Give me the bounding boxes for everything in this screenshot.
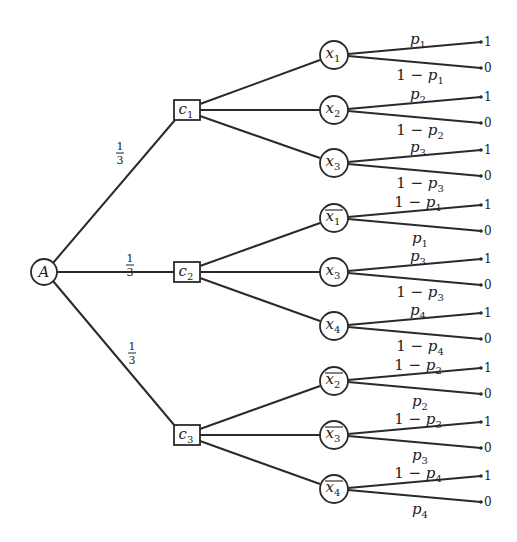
clause-node-1: c1 <box>174 100 200 120</box>
leaf-value-1: 1 <box>484 198 492 212</box>
leaf-value-1: 1 <box>484 469 492 483</box>
leaf-value-0: 0 <box>484 116 492 130</box>
edge-clause-3-to-var-1 <box>200 386 320 429</box>
leaf-value-1: 1 <box>484 35 492 49</box>
svg-text:3: 3 <box>117 154 124 167</box>
leaf-value-1: 1 <box>484 361 492 375</box>
edge-clause-1-to-var-3 <box>200 116 320 158</box>
probability-tree-diagram: Ac1x1x2x3c2x1x3x4c3x2x3x41310p11 − p110p… <box>0 0 517 542</box>
variable-node-2-2: x3 <box>320 258 348 286</box>
branch-prob-down: p1 <box>412 229 428 249</box>
branch-prob-up: 1 − p3 <box>394 410 442 430</box>
clause-node-3: c3 <box>174 425 200 445</box>
branch-prob-up: 1 − p4 <box>394 464 442 484</box>
clause-node-2: c2 <box>174 262 200 282</box>
leaf-value-1: 1 <box>484 415 492 429</box>
leaf-value-0: 0 <box>484 61 492 75</box>
leaf-value-1: 1 <box>484 143 492 157</box>
variable-node-1-2: x2 <box>320 96 348 124</box>
leaf-value-0: 0 <box>484 441 492 455</box>
edge-root-to-clause-3 <box>53 281 175 426</box>
variable-node-1-3: x3 <box>320 149 348 177</box>
leaf-value-1: 1 <box>484 306 492 320</box>
leaf-value-1: 1 <box>484 252 492 266</box>
edge-labels: 1310p11 − p110p21 − p210p31 − p313101 − … <box>116 30 492 520</box>
branch-prob-up: p1 <box>410 30 426 50</box>
edge-prob-3: 13 <box>128 340 136 367</box>
svg-text:1: 1 <box>127 252 134 265</box>
edge-clause-2-to-var-3 <box>200 278 320 321</box>
edge-clause-2-to-var-1 <box>200 223 320 266</box>
svg-text:1: 1 <box>129 340 136 353</box>
leaf-value-0: 0 <box>484 387 492 401</box>
leaf-value-0: 0 <box>484 169 492 183</box>
leaf-value-0: 0 <box>484 278 492 292</box>
branch-prob-up: 1 − p1 <box>394 193 442 213</box>
branch-prob-down: p2 <box>412 392 428 412</box>
branch-prob-down: 1 − p3 <box>396 174 444 194</box>
svg-text:1: 1 <box>117 140 124 153</box>
leaf-value-0: 0 <box>484 495 492 509</box>
branch-prob-up: p3 <box>410 247 426 267</box>
root-label: A <box>37 263 50 281</box>
variable-node-3-3: x4 <box>320 475 348 503</box>
edges <box>53 40 483 504</box>
branch-prob-up: 1 − p2 <box>394 356 442 376</box>
edge-root-to-clause-1 <box>53 120 175 263</box>
variable-node-1-1: x1 <box>320 41 348 69</box>
variable-node-2-3: x4 <box>320 312 348 340</box>
root-node: A <box>31 259 57 285</box>
branch-prob-down: p3 <box>412 446 428 466</box>
branch-prob-down: 1 − p2 <box>396 121 444 141</box>
svg-text:3: 3 <box>129 354 136 367</box>
branch-prob-down: 1 − p1 <box>396 66 444 86</box>
edge-prob-1: 13 <box>116 140 124 167</box>
edge-clause-3-to-var-3 <box>200 441 320 484</box>
branch-prob-down: p4 <box>412 500 428 520</box>
variable-node-3-2: x3 <box>320 421 348 449</box>
edge-prob-2: 13 <box>126 252 134 279</box>
leaf-value-0: 0 <box>484 224 492 238</box>
branch-prob-up: p2 <box>410 85 426 105</box>
branch-prob-down: 1 − p3 <box>396 283 444 303</box>
svg-text:3: 3 <box>127 266 134 279</box>
branch-prob-down: 1 − p4 <box>396 337 444 357</box>
leaf-value-1: 1 <box>484 90 492 104</box>
leaf-value-0: 0 <box>484 332 492 346</box>
branch-prob-up: p4 <box>410 301 426 321</box>
variable-node-3-1: x2 <box>320 367 348 395</box>
variable-node-2-1: x1 <box>320 204 348 232</box>
edge-clause-1-to-var-1 <box>200 60 320 104</box>
branch-prob-up: p3 <box>410 138 426 158</box>
